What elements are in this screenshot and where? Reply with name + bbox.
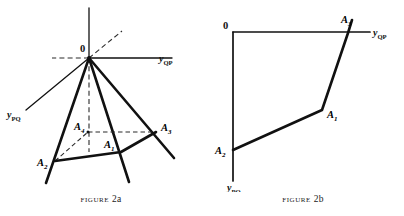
point-a2-base: A <box>36 157 44 168</box>
point-a3-label-2a: A3 <box>160 122 172 136</box>
point-a1-sub-2b: 1 <box>334 115 338 123</box>
point-a3-label-2b: A3 <box>340 14 352 28</box>
ray-origin-to-a1 <box>89 58 129 182</box>
point-a1-base-2b: A <box>326 109 334 120</box>
figure-2a-caption-number: 2a <box>112 194 121 204</box>
oblique-ray-dashed <box>89 31 122 58</box>
point-a3-base: A <box>160 122 168 133</box>
y-qp-axis-label-sub-2b: QP <box>377 33 386 40</box>
point-a3-sub-2b: 3 <box>347 20 352 28</box>
figure-2b-caption-number: 2b <box>314 194 324 204</box>
y-pq-axis-label-sub-2b: PQ <box>231 188 240 192</box>
origin-label-2a: 0 <box>80 43 85 54</box>
point-a4-base: A <box>73 121 81 132</box>
point-a1-label-2a: A1 <box>103 139 115 153</box>
figure-2b-panel: 0 yQP yPQ A1 A2 A3 Figure 2b <box>202 0 404 216</box>
point-a1-base: A <box>103 139 111 150</box>
figure-2b-drawing: 0 yQP yPQ A1 A2 A3 <box>202 0 404 192</box>
point-a1-sub: 1 <box>111 145 115 153</box>
figure-2a-caption-lead: Figure <box>81 194 110 204</box>
figure-2a-caption: Figure 2a <box>0 194 202 204</box>
y-pq-axis-label-2b: yPQ <box>226 182 241 192</box>
point-a3-base-2b: A <box>340 14 348 25</box>
y-pq-axis-label-sub: PQ <box>11 115 20 122</box>
point-a2-label-2a: A2 <box>36 157 48 171</box>
y-qp-axis-label-2a: yQP <box>158 53 173 66</box>
figure-2b-caption-lead: Figure <box>282 194 311 204</box>
y-qp-axis-label-2b: yQP <box>372 27 387 40</box>
origin-node <box>87 56 91 60</box>
figure-2b-caption: Figure 2b <box>202 194 404 204</box>
origin-label-2b: 0 <box>223 20 228 31</box>
point-a4-node <box>87 131 90 134</box>
figure-sheet: 0 yQP yPQ A1 A2 A3 A4 Figure 2a 0 yQ <box>0 0 404 216</box>
point-a1-label-2b: A1 <box>326 109 338 123</box>
y-pq-axis-label-2a: yPQ <box>6 109 21 122</box>
figure-2a-panel: 0 yQP yPQ A1 A2 A3 A4 Figure 2a <box>0 0 202 216</box>
point-a4-sub: 4 <box>80 127 85 135</box>
ray-origin-to-a2 <box>46 58 89 183</box>
point-a3-sub: 3 <box>167 128 172 136</box>
polyline-a2-a1-a3-2b <box>233 20 352 150</box>
y-qp-axis-label-sub: QP <box>163 59 172 66</box>
point-a2-sub-2b: 2 <box>221 151 226 159</box>
point-a4-label-2a: A4 <box>73 121 85 135</box>
point-a2-label-2b: A2 <box>214 145 226 159</box>
ray-origin-to-a3 <box>89 58 174 158</box>
figure-2a-drawing: 0 yQP yPQ A1 A2 A3 A4 <box>0 0 202 192</box>
point-a2-base-2b: A <box>214 145 222 156</box>
point-a2-sub: 2 <box>43 163 48 171</box>
